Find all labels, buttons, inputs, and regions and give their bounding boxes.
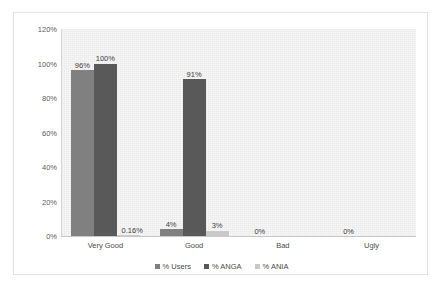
bar-group: 4%91%3% bbox=[150, 29, 239, 236]
y-axis-tick-label: 0% bbox=[17, 232, 57, 241]
bar[interactable]: 3% bbox=[206, 231, 229, 236]
legend-label: % ANGA bbox=[212, 262, 242, 271]
y-axis-tick-label: 100% bbox=[17, 59, 57, 68]
bar-value-label: 96% bbox=[75, 62, 90, 70]
bar-group: 96%100%0.16% bbox=[61, 29, 150, 236]
bar-value-label: 0.16% bbox=[122, 227, 143, 235]
y-axis-tick-label: 20% bbox=[17, 197, 57, 206]
x-axis-category-label: Bad bbox=[239, 241, 328, 250]
y-axis-tick-label: 80% bbox=[17, 94, 57, 103]
x-axis-category-label: Very Good bbox=[61, 241, 150, 250]
bar[interactable]: 0.16% bbox=[117, 235, 140, 236]
y-axis-tick-label: 60% bbox=[17, 128, 57, 137]
legend-swatch-icon bbox=[255, 264, 260, 269]
bar-value-label: 0% bbox=[343, 228, 354, 236]
y-axis-tick-label: 120% bbox=[17, 25, 57, 34]
bar-value-label: 91% bbox=[187, 71, 202, 79]
x-axis-line bbox=[61, 236, 416, 237]
bar-value-label: 100% bbox=[96, 55, 115, 63]
bar-group: 0% bbox=[327, 29, 416, 236]
legend-label: % Users bbox=[163, 262, 191, 271]
bar[interactable]: 96% bbox=[71, 70, 94, 236]
y-axis-tick-label: 40% bbox=[17, 163, 57, 172]
chart-legend: % Users% ANGA% ANIA bbox=[14, 262, 429, 271]
y-axis: 0%20%40%60%80%100%120% bbox=[14, 13, 57, 287]
x-axis-category-label: Good bbox=[150, 241, 239, 250]
legend-swatch-icon bbox=[204, 264, 209, 269]
legend-swatch-icon bbox=[155, 264, 160, 269]
bar-group: 0% bbox=[239, 29, 328, 236]
x-axis-category-label: Ugly bbox=[327, 241, 416, 250]
legend-item[interactable]: % ANGA bbox=[204, 262, 242, 271]
bar[interactable]: 91% bbox=[183, 79, 206, 236]
legend-label: % ANIA bbox=[263, 262, 289, 271]
bar-value-label: 3% bbox=[212, 222, 223, 230]
bar[interactable]: 4% bbox=[160, 229, 183, 236]
legend-item[interactable]: % Users bbox=[155, 262, 191, 271]
chart-frame: 0%20%40%60%80%100%120% 96%100%0.16%4%91%… bbox=[13, 12, 428, 275]
bar[interactable]: 100% bbox=[94, 64, 117, 237]
bar-value-label: 4% bbox=[166, 221, 177, 229]
legend-item[interactable]: % ANIA bbox=[255, 262, 289, 271]
bar-value-label: 0% bbox=[254, 228, 265, 236]
